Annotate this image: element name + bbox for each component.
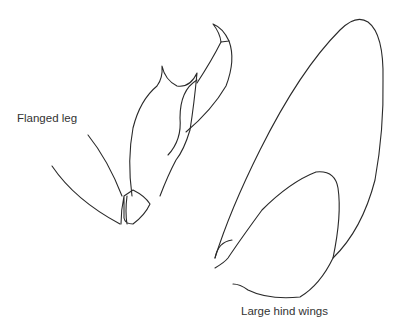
leg-claw bbox=[213, 24, 229, 42]
hind-wings bbox=[215, 19, 383, 297]
label-large-hind-wings: Large hind wings bbox=[241, 305, 328, 317]
body-outline-left bbox=[52, 166, 120, 224]
leg-femur-inner bbox=[168, 80, 197, 155]
label-flanged-leg: Flanged leg bbox=[17, 112, 77, 124]
anatomy-drawing bbox=[0, 0, 400, 326]
flanged-leg bbox=[52, 24, 232, 224]
body-outline-mid bbox=[88, 135, 122, 196]
leg-tibia bbox=[186, 41, 232, 132]
wing-inner bbox=[215, 172, 339, 298]
wing-outer bbox=[215, 19, 383, 258]
leg-joint bbox=[121, 190, 150, 224]
